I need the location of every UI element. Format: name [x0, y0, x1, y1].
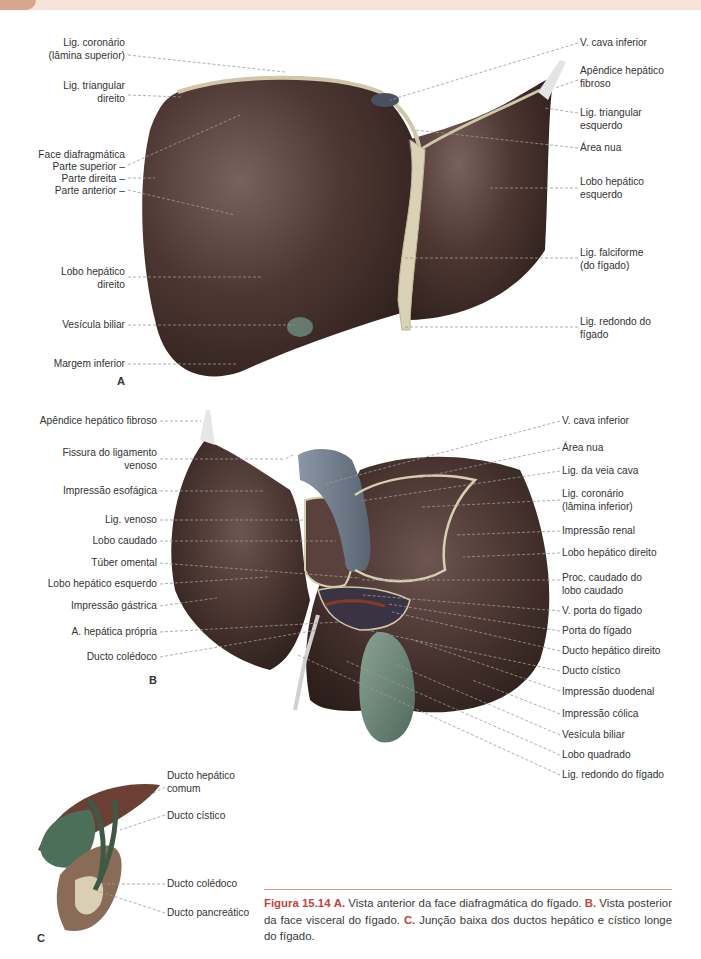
label-proc-caudado: Proc. caudado dolobo caudado	[562, 572, 642, 597]
label-a-hepatica-propria: A. hepática própria	[71, 626, 157, 639]
label-impressao-esofagica: Impressão esofágica	[63, 485, 157, 498]
label-lig-venoso: Lig. venoso	[105, 514, 157, 527]
caption-ref-b: B.	[585, 897, 596, 909]
label-parte-superior: Parte superior –	[53, 161, 125, 174]
caption-text-a: Vista anterior da face diafragmática do …	[345, 897, 585, 909]
label-lig-triangular-esquerdo: Lig. triangularesquerdo	[580, 107, 642, 132]
label-ducto-pancreatico: Ducto pancreático	[167, 907, 249, 920]
label-lobo-caudado: Lobo caudado	[92, 535, 157, 548]
label-lobo-hepatico-direito-b: Lobo hepático direito	[562, 547, 657, 560]
label-face-diafragmatica: Face diafragmática	[38, 149, 125, 162]
panel-c-ducts	[38, 784, 160, 931]
label-lig-redondo-a: Lig. redondo dofígado	[580, 316, 651, 341]
label-lig-redondo-b: Lig. redondo do fígado	[562, 769, 664, 782]
caption-ref-c: C.	[404, 914, 415, 926]
label-ducto-hepatico-direito: Ducto hepático direito	[562, 645, 661, 658]
figure-caption: Figura 15.14 A. Vista anterior da face d…	[264, 895, 672, 945]
label-vesicula-biliar-a: Vesícula biliar	[62, 319, 125, 332]
label-parte-anterior: Parte anterior –	[55, 185, 125, 198]
label-apendice-hepatico-fibroso-a: Apêndice hepáticofibroso	[580, 65, 664, 90]
label-ducto-cistico-c: Ducto cístico	[167, 810, 225, 823]
label-lig-falciforme: Lig. falciforme(do fígado)	[580, 247, 643, 272]
caption-ref-a: A.	[334, 897, 345, 909]
label-lig-triangular-direito: Lig. triangulardireito	[63, 80, 125, 105]
panel-letter-a: A	[117, 375, 125, 387]
label-impressao-duodenal: Impressão duodenal	[562, 686, 654, 699]
label-ducto-cistico-b: Ducto cístico	[562, 665, 620, 678]
label-lobo-hepatico-esquerdo-b: Lobo hepático esquerdo	[48, 578, 157, 591]
label-lobo-hepatico-direito-a: Lobo hepáticodireito	[61, 266, 125, 291]
label-tuber-omental: Túber omental	[91, 557, 157, 570]
label-apendice-hepatico-fibroso-b: Apêndice hepático fibroso	[40, 415, 157, 428]
label-lobo-quadrado: Lobo quadrado	[562, 749, 631, 762]
label-impressao-colica: Impressão cólica	[562, 708, 638, 721]
label-vesicula-biliar-b: Vesícula biliar	[562, 729, 625, 742]
label-margem-inferior: Margem inferior	[54, 358, 125, 371]
label-porta-figado: Porta do fígado	[562, 625, 632, 638]
label-ducto-coledoco-b: Ducto colédoco	[87, 651, 157, 664]
label-v-cava-inferior-b: V. cava inferior	[562, 415, 629, 428]
caption-figure-number: Figura 15.14	[264, 897, 331, 909]
label-v-cava-inferior-a: V. cava inferior	[580, 37, 647, 50]
label-ducto-coledoco-c: Ducto colédoco	[167, 878, 237, 891]
label-impressao-gastrica: Impressão gástrica	[71, 600, 157, 613]
label-lig-veia-cava: Lig. da veia cava	[562, 465, 638, 478]
label-parte-direita: Parte direita –	[62, 173, 125, 186]
label-impressao-renal: Impressão renal	[562, 525, 635, 538]
caption-divider	[264, 889, 672, 890]
panel-a-liver	[142, 60, 566, 376]
label-fissura-ligamento-venoso: Fissura do ligamentovenoso	[62, 447, 157, 472]
label-area-nua-b: Área nua	[562, 442, 603, 455]
panel-letter-b: B	[149, 674, 157, 686]
label-lig-coronario-inferior: Lig. coronário(lâmina inferior)	[562, 488, 633, 513]
label-lig-coronario-superior: Lig. coronário(lâmina superior)	[49, 37, 125, 62]
panel-b-liver	[171, 410, 549, 743]
panel-letter-c: C	[37, 932, 45, 944]
label-ducto-hepatico-comum: Ducto hepáticocomum	[167, 770, 235, 795]
label-v-porta: V. porta do fígado	[562, 605, 642, 618]
label-lobo-hepatico-esquerdo-a: Lobo hepáticoesquerdo	[580, 176, 644, 201]
label-area-nua-a: Área nua	[580, 142, 621, 155]
